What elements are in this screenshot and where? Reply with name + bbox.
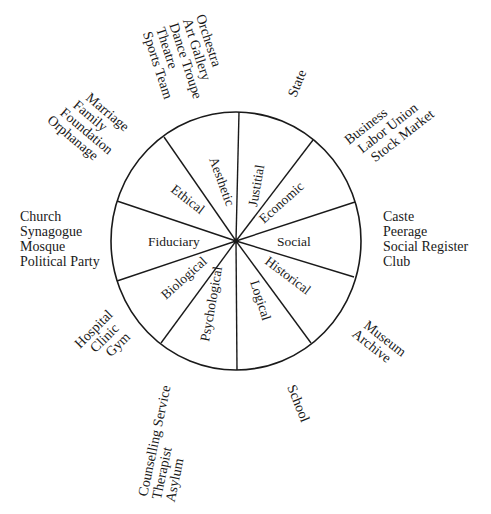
institution-mosque: Mosque (20, 239, 65, 254)
institutions-psychological: Counselling Service Therapist Asylum (135, 384, 201, 504)
sector-label-logical: Logical (247, 278, 274, 322)
sector-label-fiduciary: Fiduciary (148, 234, 200, 249)
institution-synagogue: Synagogue (20, 224, 82, 239)
sector-label-aesthetic: Aesthetic (206, 155, 238, 208)
sector-label-historical: Historical (262, 253, 314, 297)
sector-label-social: Social (277, 234, 311, 249)
aspects-wheel-diagram: Justitial Economic Social Historical Log… (0, 0, 491, 514)
institution-caste: Caste (383, 209, 414, 224)
institutions-social: Caste Peerage Social Register Club (383, 209, 468, 269)
institution-church: Church (20, 209, 61, 224)
institutions-fiduciary: Church Synagogue Mosque Political Party (20, 209, 100, 269)
institution-peerage: Peerage (383, 224, 427, 239)
wheel-hub (234, 239, 239, 244)
sector-label-ethical: Ethical (168, 182, 208, 218)
institution-club: Club (383, 254, 410, 269)
institution-political-party: Political Party (20, 254, 100, 269)
institutions-biological: Hospital Clinic Gym (72, 307, 136, 371)
institution-social-register: Social Register (383, 239, 468, 254)
institution-state: State (285, 68, 309, 100)
institutions-aesthetic: Orchestra Art Gallery Dance Troupe Theat… (140, 12, 232, 109)
sector-label-psychological: Psychological (197, 265, 225, 342)
sector-label-justitial: Justitial (245, 163, 267, 207)
institutions-economic: Business Labor Union Stock Market (342, 83, 437, 171)
institutions-ethical: Marriage Family Foundation Orphanage (45, 80, 134, 168)
institutions-historical: Museum Archive (349, 315, 409, 371)
institution-school: School (284, 383, 313, 425)
sector-label-biological: Biological (158, 253, 210, 302)
